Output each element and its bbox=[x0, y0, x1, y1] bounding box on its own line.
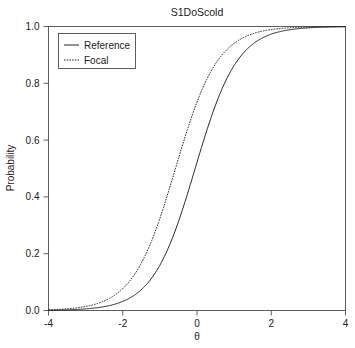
y-tick-label: 1.0 bbox=[26, 21, 40, 32]
chart-container: S1DoScold -4-2024 0.00.20.40.60.81.0 θ P… bbox=[0, 0, 355, 348]
x-tick-label: 0 bbox=[194, 318, 200, 329]
plot-background bbox=[0, 0, 355, 348]
x-axis-label: θ bbox=[194, 331, 200, 342]
y-tick-label: 0.8 bbox=[26, 78, 40, 89]
legend-label-focal: Focal bbox=[84, 55, 108, 66]
y-tick-label: 0.0 bbox=[26, 305, 40, 316]
icc-plot: S1DoScold -4-2024 0.00.20.40.60.81.0 θ P… bbox=[0, 0, 355, 348]
x-tick-label: -4 bbox=[44, 318, 53, 329]
legend-label-reference: Reference bbox=[84, 40, 131, 51]
y-tick-label: 0.4 bbox=[26, 191, 40, 202]
y-tick-label: 0.6 bbox=[26, 135, 40, 146]
y-tick-label: 0.2 bbox=[26, 248, 40, 259]
x-tick-label: 2 bbox=[268, 318, 274, 329]
chart-title: S1DoScold bbox=[171, 6, 224, 18]
y-axis-label: Probability bbox=[5, 145, 16, 192]
x-tick-label: 4 bbox=[343, 318, 349, 329]
x-tick-label: -2 bbox=[118, 318, 127, 329]
